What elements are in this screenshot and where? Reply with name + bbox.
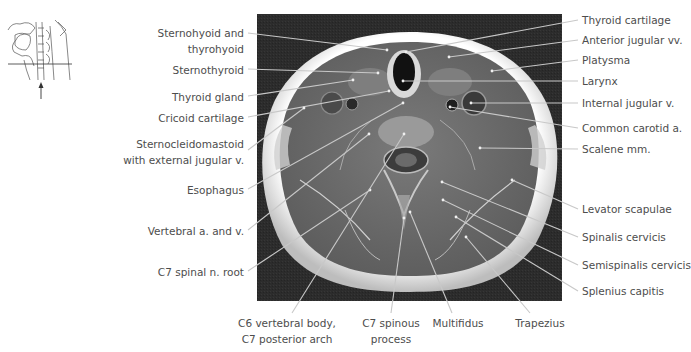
thyroid-cartilage-target-dot (405, 51, 408, 54)
vertebral-body (378, 116, 434, 148)
label-anterior-jugular: Anterior jugular vv. (582, 32, 683, 48)
sagittal-neck-sketch-icon (8, 20, 70, 80)
esophagus-target-dot (402, 102, 405, 105)
larynx-airway (393, 53, 415, 91)
label-sternohyoid: Sternohyoid and thyrohyoid (158, 25, 244, 57)
label-scm: Sternocleidomastoid with external jugula… (123, 136, 244, 168)
label-common-carotid: Common carotid a. (582, 120, 682, 136)
label-trapezius: Trapezius (470, 315, 610, 331)
sternohyoid-target-dot (386, 49, 389, 52)
label-c7-root: C7 spinal n. root (158, 264, 244, 280)
orientation-thumbnail (8, 20, 72, 99)
label-cricoid: Cricoid cartilage (158, 110, 244, 126)
label-thyroid-gland: Thyroid gland (172, 89, 244, 105)
cricoid-target-dot (388, 90, 391, 93)
splenius-target-dot (455, 216, 458, 219)
label-levator: Levator scapulae (582, 201, 672, 217)
trapezius-target-dot (465, 236, 468, 239)
label-splenius: Splenius capitis (582, 283, 664, 299)
up-arrow-icon (39, 82, 44, 99)
label-platysma: Platysma (582, 52, 630, 68)
vertebral-target-dot (368, 133, 371, 136)
common-carotid-artery (446, 99, 458, 111)
anterior-jugular-target-dot (448, 56, 451, 59)
multifidus-target-dot (409, 211, 412, 214)
c7-spinous-target-dot (403, 217, 406, 220)
scm-target-dot (303, 107, 306, 110)
label-scalene: Scalene mm. (582, 141, 651, 157)
sternothyroid-target-dot (377, 72, 380, 75)
levator-target-dot (511, 179, 514, 182)
label-sternothyroid: Sternothyroid (172, 62, 244, 78)
mri-axial-image (257, 14, 562, 301)
spinalis-target-dot (441, 181, 444, 184)
label-thyroid-cartilage: Thyroid cartilage (582, 12, 671, 28)
label-esophagus: Esophagus (187, 182, 244, 198)
common-carotid-target-dot (449, 106, 452, 109)
larynx-target-dot (402, 80, 405, 83)
label-spinalis: Spinalis cervicis (582, 229, 666, 245)
thyroid-gland-target-dot (352, 79, 355, 82)
label-larynx: Larynx (582, 73, 618, 89)
scalene-target-dot (479, 147, 482, 150)
label-internal-jugular: Internal jugular v. (582, 95, 674, 111)
label-semispinalis: Semispinalis cervicis (582, 257, 691, 273)
label-vertebral: Vertebral a. and v. (148, 223, 244, 239)
platysma-target-dot (491, 70, 494, 73)
c6-body-target-dot (403, 133, 406, 136)
internal-jugular-target-dot (470, 102, 473, 105)
semispinalis-target-dot (442, 199, 445, 202)
